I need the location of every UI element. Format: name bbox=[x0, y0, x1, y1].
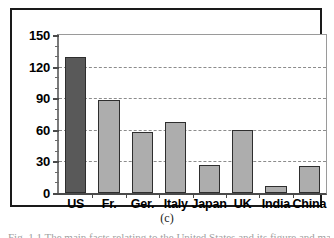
bar-uk bbox=[232, 130, 253, 193]
bar-ger bbox=[132, 132, 153, 193]
x-axis-tick bbox=[159, 193, 160, 198]
y-minor-tick bbox=[55, 172, 59, 173]
bar-japan bbox=[199, 165, 220, 193]
x-axis-label-china: China bbox=[292, 197, 326, 211]
y-axis-label-60: 60 bbox=[36, 122, 50, 137]
y-minor-tick bbox=[55, 88, 59, 89]
y-minor-tick bbox=[55, 140, 59, 141]
y-minor-tick bbox=[55, 77, 59, 78]
figure-frame: 0306090120150 USFr.Ger.ItalyJapanUKIndia… bbox=[10, 8, 322, 207]
x-axis-label-italy: Italy bbox=[164, 197, 188, 211]
y-minor-tick bbox=[55, 109, 59, 110]
bar-china bbox=[299, 166, 320, 193]
x-axis-tick bbox=[259, 193, 260, 198]
x-axis-tick bbox=[126, 193, 127, 198]
y-major-tick-150 bbox=[53, 35, 59, 37]
x-axis-tick bbox=[92, 193, 93, 198]
y-minor-tick bbox=[55, 182, 59, 183]
figure-caption-cutoff: Fig. 1.1 The main facts relating to the … bbox=[8, 231, 330, 238]
y-axis-label-120: 120 bbox=[29, 59, 50, 74]
y-axis-label-0: 0 bbox=[43, 186, 50, 201]
y-major-tick-120 bbox=[53, 67, 59, 69]
figure-subcaption: (c) bbox=[0, 211, 334, 226]
y-major-tick-0 bbox=[53, 193, 59, 195]
gridline-90 bbox=[59, 98, 326, 99]
y-major-tick-60 bbox=[53, 130, 59, 132]
x-axis-label-ger: Ger. bbox=[131, 197, 155, 211]
bar-chart-plot-area: 0306090120150 USFr.Ger.ItalyJapanUKIndia… bbox=[57, 34, 327, 195]
y-major-tick-90 bbox=[53, 98, 59, 100]
y-axis-label-150: 150 bbox=[29, 28, 50, 43]
x-axis-label-us: US bbox=[67, 197, 84, 211]
y-major-tick-30 bbox=[53, 161, 59, 163]
y-minor-tick bbox=[55, 151, 59, 152]
bar-italy bbox=[165, 122, 186, 193]
x-axis-label-india: India bbox=[262, 197, 290, 211]
bar-india bbox=[265, 186, 286, 193]
y-axis-label-90: 90 bbox=[36, 91, 50, 106]
y-minor-tick bbox=[55, 56, 59, 57]
y-minor-tick bbox=[55, 46, 59, 47]
bar-us bbox=[65, 57, 86, 193]
x-axis-label-japan: Japan bbox=[192, 197, 227, 211]
x-axis-label-fr: Fr. bbox=[102, 197, 117, 211]
y-minor-tick bbox=[55, 119, 59, 120]
x-axis-label-uk: UK bbox=[234, 197, 252, 211]
gridline-120 bbox=[59, 67, 326, 68]
y-axis-label-30: 30 bbox=[36, 154, 50, 169]
bar-fr bbox=[98, 100, 119, 193]
